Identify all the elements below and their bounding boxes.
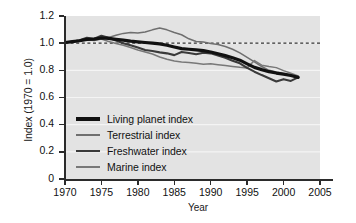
y-axis-line <box>64 16 66 179</box>
x-tick-mark <box>64 180 65 185</box>
data-series-group <box>65 28 298 82</box>
x-tick-label: 1975 <box>81 186 121 198</box>
legend-swatch-living-planet-index <box>76 117 100 120</box>
y-tick-mark <box>59 15 64 16</box>
x-tick-mark <box>210 180 211 185</box>
y-tick-label: 1.2 <box>39 9 54 21</box>
x-tick-label: 1980 <box>118 186 158 198</box>
legend-swatch-marine-index <box>76 166 100 168</box>
legend-item-terrestrial-index: Terrestrial index <box>76 127 226 143</box>
x-tick-label: 1995 <box>227 186 267 198</box>
y-tick-mark <box>59 151 64 152</box>
chart-legend: Living planet index Terrestrial index Fr… <box>76 111 226 175</box>
x-tick-mark <box>101 180 102 185</box>
legend-label-living-planet-index: Living planet index <box>107 113 193 125</box>
x-tick-label: 2005 <box>300 186 340 198</box>
y-tick-mark <box>59 124 64 125</box>
legend-swatch-freshwater-index <box>76 150 100 152</box>
x-tick-mark <box>174 180 175 185</box>
x-tick-label: 1970 <box>45 186 85 198</box>
legend-label-marine-index: Marine index <box>107 161 167 173</box>
x-tick-label: 1990 <box>191 186 231 198</box>
y-tick-mark <box>59 70 64 71</box>
x-tick-mark <box>246 180 247 185</box>
y-tick-mark <box>59 178 64 179</box>
legend-item-marine-index: Marine index <box>76 159 226 175</box>
x-axis-title: Year <box>64 202 332 213</box>
y-tick-mark <box>59 42 64 43</box>
x-axis-line <box>64 179 333 181</box>
x-tick-mark <box>319 180 320 185</box>
y-tick-label: 0.4 <box>39 117 54 129</box>
y-tick-mark <box>59 97 64 98</box>
legend-swatch-terrestrial-index <box>76 134 100 136</box>
series-line-freshwater-index <box>65 36 298 82</box>
x-tick-label: 2000 <box>264 186 304 198</box>
y-tick-label: 0 <box>48 172 54 184</box>
x-tick-mark <box>137 180 138 185</box>
y-tick-label: 0.8 <box>39 63 54 75</box>
y-tick-label: 0.6 <box>39 90 54 102</box>
y-axis-title: Index (1970 = 1.0) <box>22 20 34 180</box>
legend-item-living-planet-index: Living planet index <box>76 111 226 127</box>
y-tick-label: 1.0 <box>39 36 54 48</box>
legend-item-freshwater-index: Freshwater index <box>76 143 226 159</box>
legend-label-terrestrial-index: Terrestrial index <box>107 129 180 141</box>
x-tick-label: 1985 <box>154 186 194 198</box>
x-tick-mark <box>283 180 284 185</box>
y-tick-label: 0.2 <box>39 144 54 156</box>
line-chart-figure: Index (1970 = 1.0) 1.21.00.80.60.40.20 1… <box>0 0 356 223</box>
legend-label-freshwater-index: Freshwater index <box>107 145 187 157</box>
series-line-living-planet-index <box>65 38 298 77</box>
